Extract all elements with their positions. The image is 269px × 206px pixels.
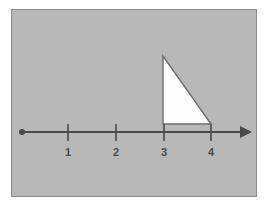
origin-dot xyxy=(19,129,25,135)
tick-label-3: 3 xyxy=(161,146,167,158)
number-line-figure: 1 2 3 4 xyxy=(0,0,269,206)
right-triangle-shape xyxy=(163,56,211,124)
tick-label-1: 1 xyxy=(65,146,71,158)
tick-label-4: 4 xyxy=(208,146,215,158)
figure-root: 1 2 3 4 xyxy=(0,0,269,206)
axis-arrowhead-icon xyxy=(240,126,252,138)
tick-label-2: 2 xyxy=(113,146,119,158)
